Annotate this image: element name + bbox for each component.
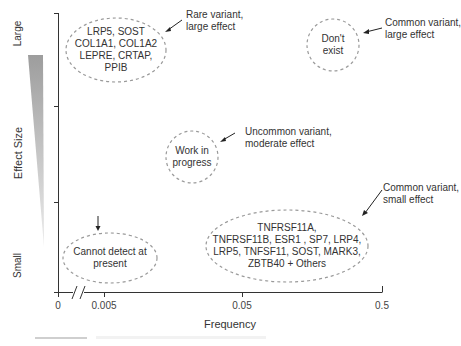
gene-line: TNFRSF11B, ESR1 , SP7, LRP4,: [205, 234, 369, 246]
region-line: Work in: [164, 145, 220, 157]
note-line: Common variant,: [385, 17, 461, 29]
region-line: progress: [164, 157, 220, 169]
gene-line: LRP5, SOST: [66, 26, 166, 38]
x-tick-0: 0: [55, 300, 61, 311]
note-common-large: Common variant, large effect: [385, 17, 461, 41]
region-line: exist: [307, 45, 359, 57]
region-line: Don't: [307, 33, 359, 45]
gene-line: LRP5, TNFSF11, SOST, MARK3,: [205, 246, 369, 258]
y-axis-title: Effect Size: [12, 118, 24, 188]
region-uncommon-moderate-text: Work in progress: [164, 145, 220, 169]
region-rare-large-genes: LRP5, SOST COL1A1, COL1A2 LEPRE, CRTAP, …: [66, 26, 166, 74]
y-tick-large: Large: [12, 19, 23, 49]
arrow-common-large-icon: [363, 28, 382, 34]
region-common-small-genes: TNFRSF11A, TNFRSF11B, ESR1 , SP7, LRP4, …: [205, 222, 369, 270]
gene-line: COL1A1, COL1A2: [66, 38, 166, 50]
x-tick-05: 0.5: [375, 300, 389, 311]
gene-line: ZBTB40 + Others: [205, 258, 369, 270]
note-line: large effect: [385, 29, 461, 41]
y-axis: [54, 13, 59, 292]
x-axis-title: Frequency: [195, 318, 265, 330]
note-line: moderate effect: [245, 138, 332, 150]
x-axis: [54, 286, 383, 297]
region-line: Cannot detect at: [62, 246, 158, 258]
region-rare-small-text: Cannot detect at present: [62, 246, 158, 270]
note-line: large effect: [186, 21, 243, 33]
x-tick-005: 0.05: [232, 300, 251, 311]
arrow-rare-large-icon: [165, 20, 182, 32]
arrow-common-small-icon: [362, 190, 382, 216]
gene-line: LEPRE, CRTAP,: [66, 50, 166, 62]
gene-line: PPIB: [66, 62, 166, 74]
effect-size-gradient-wedge: [28, 55, 44, 247]
region-line: present: [62, 258, 158, 270]
caption-rule: [35, 337, 87, 339]
note-common-small: Common variant, small effect: [383, 182, 459, 206]
note-line: small effect: [383, 194, 459, 206]
y-tick-small: Small: [12, 251, 23, 281]
note-rare-large: Rare variant, large effect: [186, 9, 243, 33]
x-tick-0005: 0.005: [91, 300, 116, 311]
note-uncommon-moderate: Uncommon variant, moderate effect: [245, 126, 332, 150]
arrow-uncommon-moderate-icon: [220, 133, 235, 142]
note-line: Uncommon variant,: [245, 126, 332, 138]
axis-break-icon: [72, 286, 85, 299]
note-line: Common variant,: [383, 182, 459, 194]
arrow-rare-small-icon: [96, 216, 101, 231]
note-line: Rare variant,: [186, 9, 243, 21]
gene-line: TNFRSF11A,: [205, 222, 369, 234]
region-common-large-text: Don't exist: [307, 33, 359, 57]
caption-cropped: [96, 336, 266, 339]
